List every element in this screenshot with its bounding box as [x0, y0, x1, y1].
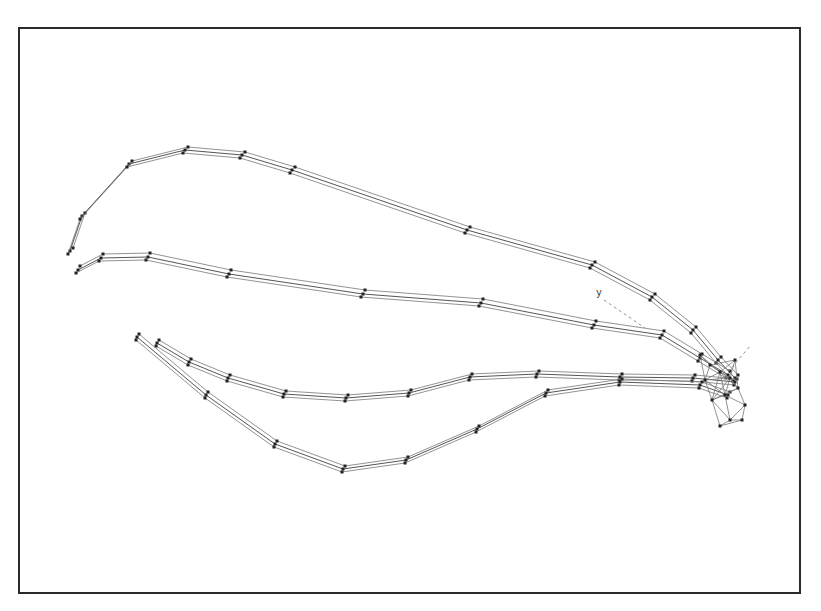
landmark-point: [344, 465, 347, 468]
landmark-point: [659, 337, 662, 340]
landmark-point: [408, 392, 411, 395]
landmark-point: [469, 226, 472, 229]
medial-vein-specimen: [156, 346, 734, 401]
landmark-point: [591, 264, 594, 267]
landmark-point: [138, 333, 141, 336]
landmark-point: [147, 256, 150, 259]
landmark-point: [100, 257, 103, 260]
landmark-point: [711, 399, 714, 402]
medial-vein-specimen: [157, 343, 735, 398]
cubital-vein-specimen: [136, 340, 727, 472]
landmark-point: [538, 370, 541, 373]
landmark-point: [619, 381, 622, 384]
landmark-point: [698, 387, 701, 390]
landmark-point: [720, 356, 723, 359]
y-axis-label: y: [596, 287, 602, 298]
cubital-vein-specimen: [137, 337, 728, 469]
landmark-point: [593, 324, 596, 327]
landmark-point: [341, 471, 344, 474]
landmark-point: [136, 336, 139, 339]
landmark-point: [285, 390, 288, 393]
landmark-point: [709, 364, 712, 367]
landmark-point: [407, 395, 410, 398]
costal-vein-specimen: [70, 150, 735, 378]
landmark-point: [741, 419, 744, 422]
landmark-point: [478, 425, 481, 428]
landmark-point: [407, 456, 410, 459]
landmark-point: [241, 154, 244, 157]
landmark-point: [737, 387, 740, 390]
landmark-point: [187, 146, 190, 149]
landmark-point: [654, 293, 657, 296]
landmark-point: [274, 443, 277, 446]
landmark-point: [719, 371, 722, 374]
landmark-point: [589, 267, 592, 270]
landmark-point: [719, 425, 722, 428]
landmark-point: [184, 149, 187, 152]
landmark-point: [704, 379, 707, 382]
landmark-point: [79, 265, 82, 268]
landmark-point: [692, 377, 695, 380]
y-axis-guide: [604, 300, 645, 328]
landmark-point: [131, 160, 134, 163]
landmark-point: [282, 396, 285, 399]
landmark-point: [226, 276, 229, 279]
landmark-point: [187, 364, 190, 367]
landmark-point: [621, 373, 624, 376]
landmark-point: [67, 253, 70, 256]
costal-vein-specimen: [73, 147, 738, 375]
landmark-point: [651, 296, 654, 299]
landmark-point: [405, 459, 408, 462]
landmark-point: [482, 298, 485, 301]
landmark-point: [239, 157, 242, 160]
landmark-point: [547, 389, 550, 392]
landmark-point: [469, 376, 472, 379]
landmark-point: [692, 329, 695, 332]
landmark-point: [661, 334, 664, 337]
landmark-point: [227, 377, 230, 380]
landmark-point: [729, 419, 732, 422]
landmark-point: [694, 374, 697, 377]
costal-vein-specimen: [68, 153, 733, 381]
landmark-point: [190, 358, 193, 361]
landmark-point: [149, 252, 152, 255]
landmark-point: [697, 360, 700, 363]
cluster-link: [725, 395, 745, 405]
landmark-point: [595, 320, 598, 323]
landmark-point: [591, 327, 594, 330]
landmark-point: [347, 394, 350, 397]
landmark-point: [283, 393, 286, 396]
costal-vein: [67, 146, 740, 383]
landmark-point: [362, 293, 365, 296]
landmark-point: [695, 326, 698, 329]
radial-vein-specimen: [80, 253, 730, 371]
landmark-point: [230, 269, 233, 272]
landmark-point: [594, 261, 597, 264]
landmark-point: [410, 389, 413, 392]
landmark-point: [135, 339, 138, 342]
landmark-point: [360, 296, 363, 299]
landmark-point: [98, 260, 101, 263]
landmark-point: [475, 431, 478, 434]
cubital-vein-specimen: [139, 334, 730, 466]
vein-layer: [67, 146, 740, 474]
landmark-point: [690, 332, 693, 335]
landmark-point: [145, 259, 148, 262]
landmark-point: [663, 330, 666, 333]
landmark-point: [649, 299, 652, 302]
landmark-point: [404, 462, 407, 465]
landmark-point: [273, 446, 276, 449]
landmark-point: [468, 379, 471, 382]
landmark-point: [466, 229, 469, 232]
landmark-point: [207, 391, 210, 394]
landmark-point: [205, 394, 208, 397]
landmark-point: [204, 397, 207, 400]
landmark-point: [276, 440, 279, 443]
landmark-point: [226, 380, 229, 383]
landmark-point: [289, 172, 292, 175]
landmark-point: [478, 305, 481, 308]
landmark-point: [701, 381, 704, 384]
landmark-point: [621, 378, 624, 381]
landmark-point: [228, 273, 231, 276]
landmark-point: [476, 428, 479, 431]
